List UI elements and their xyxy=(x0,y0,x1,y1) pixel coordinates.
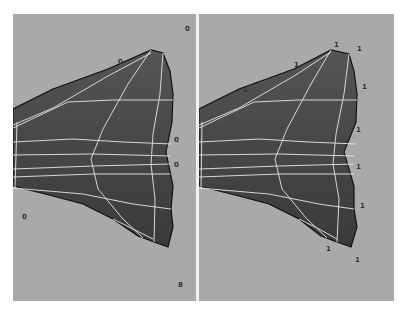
vertex-marker: 1 xyxy=(243,87,248,94)
vertex-marker: 1 xyxy=(356,127,361,134)
vertex-marker: 0 xyxy=(174,137,179,144)
vertex-marker: 1 xyxy=(356,164,361,171)
vertex-marker: 0 xyxy=(118,59,123,66)
vertex-marker: 1 xyxy=(360,203,365,210)
vertex-marker: 0 xyxy=(185,26,190,33)
vertex-marker: 1 xyxy=(334,42,339,49)
vertex-marker: 8 xyxy=(178,282,183,289)
mesh-wireframe-left xyxy=(13,14,196,301)
vertex-marker: 1 xyxy=(294,62,299,69)
right-viewport[interactable]: 1 1 1 1 1 1 1 1 1 1 xyxy=(199,14,394,301)
vertex-marker: 0 xyxy=(22,214,27,221)
vertex-marker: 1 xyxy=(357,46,362,53)
vertex-marker: 0 xyxy=(174,162,179,169)
vertex-marker: 1 xyxy=(355,257,360,264)
mesh-wireframe-right xyxy=(199,14,394,301)
left-viewport[interactable]: 0 0 0 0 0 8 xyxy=(13,14,196,301)
vertex-marker: 1 xyxy=(326,246,331,253)
vertex-marker: 1 xyxy=(362,84,367,91)
